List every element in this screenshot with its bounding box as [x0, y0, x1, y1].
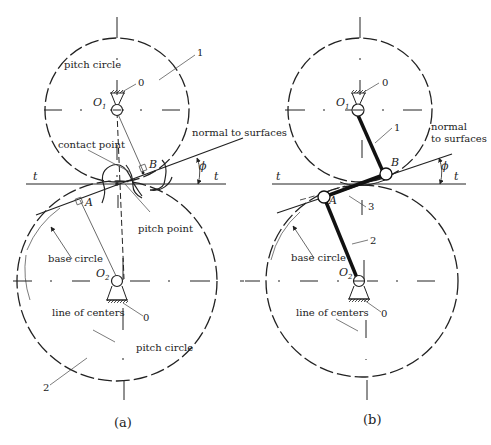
label-t-right: t	[214, 170, 219, 183]
label-base-circle-b: base circle	[291, 252, 346, 263]
label-t-left: t	[33, 170, 38, 183]
label-ground-top: 0	[138, 77, 144, 88]
label-o1: O1	[93, 96, 107, 111]
label-link1: 1	[394, 122, 400, 133]
label-normal: normal to surfaces	[192, 127, 287, 138]
label-phi-b: ϕ	[441, 160, 449, 173]
label-gear2: 2	[43, 382, 49, 393]
label-ground-top-b: 0	[382, 77, 388, 88]
label-t-left-b: t	[276, 170, 281, 183]
label-a: A	[84, 196, 93, 209]
label-t-right-b: t	[454, 170, 459, 183]
caption-b: (b)	[363, 412, 381, 427]
label-link2: 2	[370, 235, 376, 246]
label-contact-point: contact point	[58, 139, 125, 150]
label-normal-2: to surfaces	[431, 133, 487, 144]
label-line-of-centers: line of centers	[52, 307, 125, 318]
label-b-b: B	[390, 156, 399, 169]
label-line-of-centers-b: line of centers	[296, 307, 369, 318]
label-base-circle: base circle	[48, 253, 103, 264]
label-ground-bottom-b: 0	[381, 308, 387, 319]
label-o2: O2	[96, 267, 110, 282]
label-o1-b: O1	[336, 96, 350, 111]
label-pitch-circle-top: pitch circle	[64, 59, 121, 70]
label-a-b: A	[328, 194, 337, 207]
label-ground-bottom: 0	[143, 312, 149, 323]
label-pitch-point: pitch point	[138, 223, 193, 234]
label-gear1: 1	[197, 47, 203, 58]
centerlines-bottom	[13, 195, 244, 400]
label-phi: ϕ	[199, 160, 207, 173]
gear-contact-diagram: pitch circle 1 0 O1 normal to surfaces c…	[0, 0, 491, 445]
caption-a: (a)	[114, 415, 132, 430]
centerlines-top	[44, 17, 180, 177]
figure-a: pitch circle 1 0 O1 normal to surfaces c…	[13, 17, 287, 430]
label-link3: 3	[368, 201, 374, 212]
centerlines-bottom-b	[245, 200, 435, 400]
link-1[interactable]	[357, 113, 384, 174]
figure-b: 0 O1 1 normal to surfaces B ϕ t t A 3 2 …	[245, 17, 487, 427]
label-o2-b: O2	[339, 266, 353, 281]
label-b: B	[148, 158, 157, 171]
label-pitch-circle-bottom: pitch circle	[136, 342, 193, 353]
label-normal-1: normal	[431, 121, 467, 132]
pivot-o1-b	[351, 90, 366, 116]
joint-b[interactable]	[380, 168, 392, 180]
